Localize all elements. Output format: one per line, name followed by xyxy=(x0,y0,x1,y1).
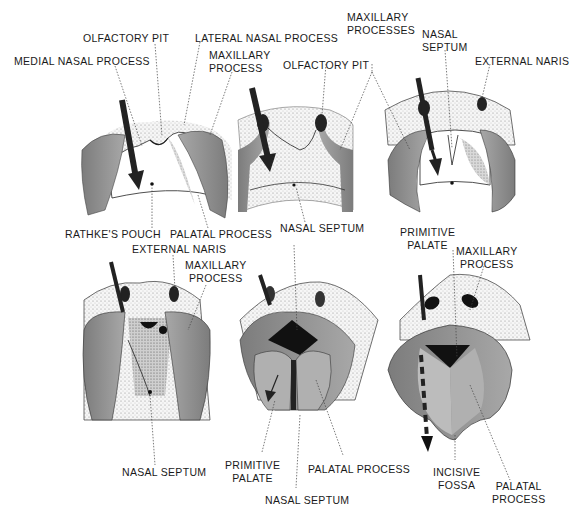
label-maxillary-process-6: MAXILLARY PROCESS xyxy=(456,245,517,271)
label-line-1: MAXILLARY xyxy=(209,49,270,62)
label-olfactory-pit-2: OLFACTORY PIT xyxy=(283,59,369,72)
label-line-2: PALATE xyxy=(225,472,280,485)
label-line-1: MAXILLARY xyxy=(347,11,415,24)
label-line-2: PROCESSES xyxy=(347,24,415,37)
palate-development-figure: OLFACTORY PIT LATERAL NASAL PROCESS MEDI… xyxy=(0,0,582,516)
label-incisive-fossa: INCISIVE FOSSA xyxy=(433,466,480,492)
label-maxillary-processes: MAXILLARY PROCESSES xyxy=(347,11,415,37)
label-line-2: PROCESS xyxy=(492,493,545,506)
label-line-1: MAXILLARY xyxy=(185,259,246,272)
label-nasal-septum-top: NASAL SEPTUM xyxy=(422,28,468,54)
label-line-1: PRIMITIVE xyxy=(400,226,455,239)
label-line-1: NASAL xyxy=(422,28,468,41)
label-line-2: PALATE xyxy=(400,239,455,252)
panel-stage-3 xyxy=(385,78,515,212)
label-line-1: INCISIVE xyxy=(433,466,480,479)
panel-stage-2 xyxy=(238,88,353,212)
label-nasal-septum-4: NASAL SEPTUM xyxy=(122,466,206,479)
label-nasal-septum-5: NASAL SEPTUM xyxy=(265,494,349,507)
label-maxillary-process-1: MAXILLARY PROCESS xyxy=(209,49,270,75)
panel-stage-5 xyxy=(240,275,378,410)
label-primitive-palate-3: PRIMITIVE PALATE xyxy=(400,226,455,252)
label-line-2: PROCESS xyxy=(456,258,517,271)
label-line-2: PROCESS xyxy=(209,62,270,75)
label-maxillary-process-4: MAXILLARY PROCESS xyxy=(185,259,246,285)
label-line-1: MAXILLARY xyxy=(456,245,517,258)
panel-stage-4 xyxy=(83,262,210,420)
label-line-2: FOSSA xyxy=(433,479,480,492)
panel-stage-6 xyxy=(388,274,530,452)
label-external-naris-top: EXTERNAL NARIS xyxy=(475,55,569,68)
panel-stage-1 xyxy=(82,100,232,218)
label-medial-nasal-process: MEDIAL NASAL PROCESS xyxy=(14,55,150,68)
label-palatal-process-5: PALATAL PROCESS xyxy=(308,463,410,476)
label-palatal-process-6: PALATAL PROCESS xyxy=(492,480,545,506)
label-line-2: PROCESS xyxy=(185,272,246,285)
label-line-1: PALATAL xyxy=(492,480,545,493)
label-line-2: SEPTUM xyxy=(422,41,468,54)
label-primitive-palate-5: PRIMITIVE PALATE xyxy=(225,459,280,485)
label-rathkes-pouch: RATHKE'S POUCH xyxy=(65,228,161,241)
label-olfactory-pit-1: OLFACTORY PIT xyxy=(83,32,169,45)
label-external-naris-bottom: EXTERNAL NARIS xyxy=(132,243,226,256)
label-lateral-nasal-process: LATERAL NASAL PROCESS xyxy=(195,32,338,45)
label-palatal-process-1: PALATAL PROCESS xyxy=(170,228,272,241)
label-line-1: PRIMITIVE xyxy=(225,459,280,472)
label-nasal-septum-2: NASAL SEPTUM xyxy=(280,222,364,235)
